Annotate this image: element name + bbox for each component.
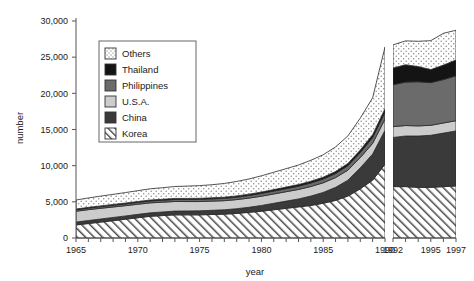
area-stack-right — [393, 30, 456, 238]
chart-figure: 05,00010,00015,00020,00025,00030,000 196… — [0, 0, 474, 281]
x-axis-title: year — [246, 266, 264, 277]
x-tick-label: 1965 — [66, 245, 86, 255]
y-tick-label: 0 — [63, 233, 68, 243]
legend-label-others: Others — [122, 48, 151, 59]
legend-label-korea: Korea — [122, 128, 148, 139]
legend-label-thailand: Thailand — [122, 64, 158, 75]
stacked-area-chart: 05,00010,00015,00020,00025,00030,000 196… — [0, 0, 474, 281]
legend-swatch-china — [105, 112, 116, 123]
y-tick-label: 5,000 — [45, 197, 68, 207]
legend-swatch-philippines — [105, 80, 116, 91]
legend-swatch-usa — [105, 96, 116, 107]
area-series-korea — [393, 186, 456, 238]
x-tick-label: 1970 — [128, 245, 148, 255]
area-series-china — [393, 131, 456, 187]
x-tick-label: 1980 — [251, 245, 271, 255]
y-tick-label: 10,000 — [40, 161, 68, 171]
x-tick-label: 1997 — [446, 245, 466, 255]
y-axis-title: number — [14, 112, 25, 144]
y-axis-ticks: 05,00010,00015,00020,00025,00030,000 — [40, 16, 76, 243]
area-series-others — [393, 30, 456, 69]
y-tick-label: 25,000 — [40, 52, 68, 62]
legend-swatch-korea — [105, 128, 116, 139]
x-axis-ticks: 196519701975198019851990199219951997 — [66, 238, 466, 255]
legend-label-china: China — [122, 112, 148, 123]
x-tick-label: 1995 — [421, 245, 441, 255]
legend-swatch-others — [105, 48, 116, 59]
y-tick-label: 15,000 — [40, 125, 68, 135]
y-tick-label: 20,000 — [40, 89, 68, 99]
chart-legend: OthersThailandPhilippinesU.S.A.ChinaKore… — [99, 41, 196, 142]
x-tick-label: 1992 — [383, 245, 403, 255]
legend-label-usa: U.S.A. — [122, 96, 149, 107]
y-tick-label: 30,000 — [40, 16, 68, 26]
x-tick-label: 1985 — [313, 245, 333, 255]
legend-swatch-thailand — [105, 64, 116, 75]
area-series-philippines — [393, 76, 456, 127]
x-tick-label: 1975 — [190, 245, 210, 255]
legend-label-philippines: Philippines — [122, 80, 168, 91]
